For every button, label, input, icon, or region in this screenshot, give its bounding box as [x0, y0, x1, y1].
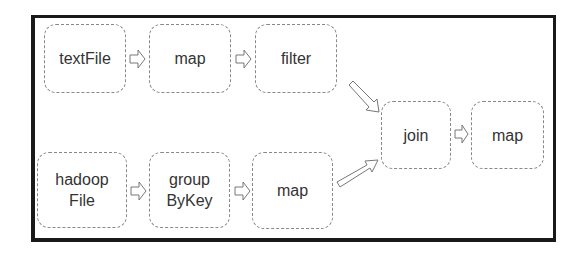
arrow-diagonal-up-icon [337, 160, 378, 187]
arrow-right-icon [130, 50, 145, 68]
arrow-right-icon [455, 125, 468, 143]
arrow-right-icon [235, 182, 250, 200]
arrow-diagonal-down-icon [349, 81, 379, 112]
arrow-right-icon [236, 50, 251, 68]
arrows-layer [0, 0, 580, 254]
arrow-right-icon [131, 182, 146, 200]
